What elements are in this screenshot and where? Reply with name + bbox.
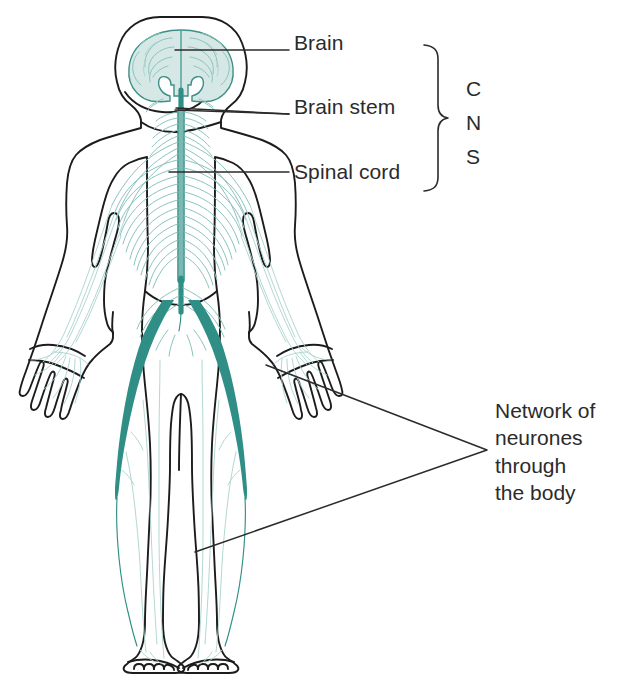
network-line-1: Network of [495,397,595,424]
cns-label: C N S [466,72,481,174]
curly-brace-icon [424,45,448,191]
network-line-2: neurones [495,424,595,451]
label-brain: Brain [294,31,344,56]
network-line-4: the body [495,479,595,506]
cns-letter-c: C [466,72,481,106]
label-spinal-cord: Spinal cord [294,160,400,185]
network-callout-lines [195,365,487,552]
cns-letter-s: S [466,140,481,174]
network-line-3: through [495,452,595,479]
network-callout-label: Network of neurones through the body [495,397,595,506]
cns-letter-n: N [466,106,481,140]
nervous-system-figure: .body-line { fill:none; stroke:#1c1c1c; … [0,0,628,685]
spinal-cord-icon [179,90,181,331]
label-brain-stem: Brain stem [294,95,395,120]
